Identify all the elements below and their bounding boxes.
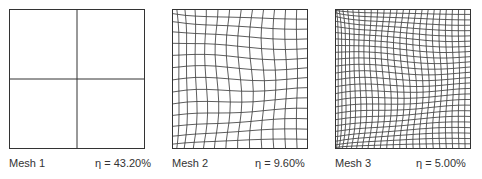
mesh-panel-1: Mesh 1 η = 43.20% bbox=[0, 0, 160, 179]
mesh-3-grid bbox=[335, 9, 471, 149]
mesh-1-diagram bbox=[9, 9, 145, 149]
mesh-1-grid bbox=[9, 9, 145, 149]
mesh-2-eta: η = 9.60% bbox=[255, 156, 305, 170]
mesh-3-eta: η = 5.00% bbox=[416, 156, 466, 170]
mesh-3-label: Mesh 3 bbox=[335, 156, 371, 170]
mesh-2-label: Mesh 2 bbox=[172, 156, 208, 170]
mesh-1-eta: η = 43.20% bbox=[95, 156, 151, 170]
mesh-3-diagram bbox=[335, 9, 471, 149]
mesh-2-diagram bbox=[172, 9, 308, 149]
mesh-1-label: Mesh 1 bbox=[9, 156, 45, 170]
mesh-2-grid bbox=[172, 9, 308, 149]
mesh-panel-2: Mesh 2 η = 9.60% bbox=[160, 0, 320, 179]
mesh-panel-3: Mesh 3 η = 5.00% bbox=[322, 0, 482, 179]
